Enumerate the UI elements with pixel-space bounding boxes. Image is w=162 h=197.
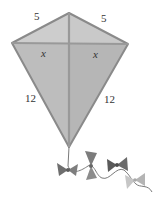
label-top-right-side: 5 bbox=[101, 13, 107, 24]
label-bottom-right-side: 12 bbox=[104, 94, 115, 105]
label-bottom-left-side: 12 bbox=[25, 93, 36, 104]
label-right-half-diagonal: x bbox=[93, 49, 98, 60]
label-top-left-side: 5 bbox=[34, 11, 40, 22]
horizontal-diagonal bbox=[12, 43, 128, 44]
label-left-half-diagonal: x bbox=[41, 48, 46, 59]
tail-bow-1 bbox=[57, 163, 78, 176]
tail-bow-2 bbox=[85, 151, 97, 180]
kite-diagram: 5 5 x x 12 12 bbox=[0, 0, 162, 197]
tail-bow-3 bbox=[107, 157, 128, 172]
